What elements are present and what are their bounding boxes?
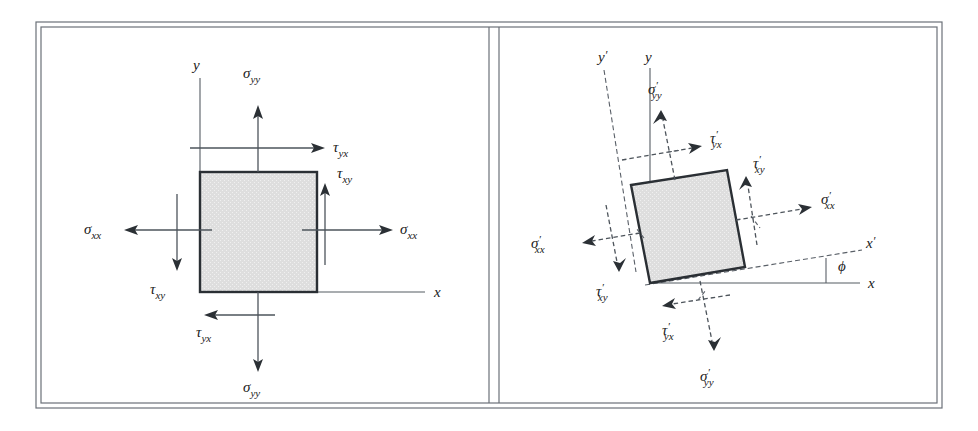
left-sigma-yy-top-sub: yy bbox=[249, 73, 260, 85]
right-sigma-xx-prime-right-sub: xx bbox=[824, 199, 835, 211]
right-y-axis-label: y bbox=[643, 49, 652, 65]
right-sigma-yy-prime-bottom-shaft bbox=[700, 281, 712, 341]
right-sigma-yy-prime-top-arrow-group bbox=[653, 110, 675, 180]
right-sigma-yy-prime-top-head bbox=[653, 110, 667, 124]
left-sigma-xx-right-label: σxx bbox=[400, 221, 417, 241]
right-sigma-yy-prime-bottom-head bbox=[708, 337, 721, 351]
right-tau-yx-prime-bottom-arrow-group bbox=[662, 295, 730, 309]
right-x-prime-mark: ′ bbox=[873, 234, 876, 248]
left-sigma-yy-top-arrow-group bbox=[253, 105, 263, 172]
right-tau-yx-prime-bottom-label: τ′yx bbox=[662, 320, 674, 342]
left-tau-xy-left-sub: xy bbox=[154, 289, 165, 301]
right-sigma-yy-prime-bottom-arrow-group bbox=[700, 281, 721, 351]
right-stress-square-rotated bbox=[631, 170, 745, 283]
right-tick-right-1 bbox=[751, 216, 760, 228]
right-sigma-xx-prime-left-shaft bbox=[592, 233, 640, 241]
left-stress-square bbox=[200, 172, 317, 292]
left-sigma-yy-bottom-sub: yy bbox=[249, 387, 260, 399]
left-sigma-xx-left-sub: xx bbox=[90, 229, 101, 241]
right-tau-xy-prime-left-shaft bbox=[606, 205, 617, 262]
right-phi-angle-label: ϕ bbox=[838, 258, 846, 274]
right-sigma-yy-prime-bottom-label: σ′yy bbox=[700, 366, 714, 388]
right-sigma-xx-prime-right-head bbox=[798, 204, 812, 215]
left-tau-yx-top-sub: yx bbox=[337, 147, 348, 159]
right-tau-xy-prime-right-shaft bbox=[748, 186, 757, 245]
right-y-prime-axis-line bbox=[604, 70, 636, 272]
left-sigma-yy-top-label: σyy bbox=[243, 65, 260, 85]
right-y-prime-mark: ′ bbox=[605, 48, 608, 62]
right-tau-xy-prime-right-sub: xy bbox=[754, 163, 765, 175]
left-tau-yx-bottom-sub: yx bbox=[200, 332, 211, 344]
left-sigma-xx-right-sub: xx bbox=[406, 229, 417, 241]
left-tau-xy-right-sub: xy bbox=[341, 173, 352, 185]
right-sigma-yy-prime-bottom-sub: yy bbox=[703, 376, 714, 388]
left-sigma-xx-left-label: σxx bbox=[84, 221, 101, 241]
right-y-prime-letter: y bbox=[596, 49, 605, 65]
right-tau-yx-prime-bottom-shaft bbox=[672, 295, 730, 304]
right-x-prime-axis-label: x′ bbox=[865, 234, 876, 251]
right-x-axis-label: x bbox=[867, 275, 875, 291]
right-sigma-xx-prime-left-sub: xx bbox=[534, 243, 545, 255]
right-tau-yx-prime-bottom-sub: yx bbox=[663, 330, 674, 342]
left-sigma-yy-bottom-label: σyy bbox=[243, 379, 260, 399]
right-tau-xy-prime-right-arrow-group bbox=[739, 176, 757, 245]
right-tau-xy-prime-left-label: τ′xy bbox=[596, 281, 608, 303]
right-tau-xy-prime-right-head bbox=[739, 176, 752, 190]
left-sigma-yy-bottom-arrow-group bbox=[253, 292, 263, 372]
right-tau-yx-prime-top-shaft bbox=[622, 148, 692, 160]
left-tau-yx-top-label: τyx bbox=[333, 139, 348, 159]
left-y-axis-label: y bbox=[191, 57, 200, 73]
left-tau-yx-bottom-label: τyx bbox=[196, 324, 211, 344]
right-tau-xy-prime-right-label: τ′xy bbox=[753, 153, 765, 175]
right-sigma-yy-prime-top-sub: yy bbox=[651, 89, 662, 101]
left-tau-xy-right-label: τxy bbox=[337, 165, 352, 185]
figure-canvas: y x σyy τyx bbox=[0, 0, 978, 431]
left-tau-xy-right-arrow-group bbox=[320, 183, 330, 265]
right-y-prime-axis-label: y′ bbox=[596, 48, 608, 65]
right-sigma-xx-prime-right-shaft bbox=[736, 209, 802, 220]
left-panel-unrotated: y x σyy τyx bbox=[84, 57, 441, 399]
right-tau-yx-prime-top-arrow-group bbox=[622, 143, 702, 160]
left-tau-xy-left-arrow-group bbox=[172, 194, 182, 271]
right-tau-yx-prime-top-label: τ′yx bbox=[710, 128, 722, 150]
right-sigma-xx-prime-right-arrow-group bbox=[736, 204, 812, 220]
right-tau-xy-prime-left-head bbox=[613, 258, 626, 272]
left-x-axis-label: x bbox=[433, 284, 441, 300]
right-sigma-xx-prime-left-label: σ′xx bbox=[531, 233, 545, 255]
right-sigma-yy-prime-top-shaft bbox=[663, 120, 675, 180]
right-panel-rotated: y x y′ x′ ϕ σ′yy bbox=[531, 48, 876, 388]
right-tau-xy-prime-left-sub: xy bbox=[597, 291, 608, 303]
right-tau-yx-prime-top-sub: yx bbox=[711, 138, 722, 150]
stress-transformation-figure: y x σyy τyx bbox=[0, 0, 978, 431]
left-tau-yx-bottom-arrow-group bbox=[204, 310, 275, 320]
right-sigma-xx-prime-right-label: σ′xx bbox=[821, 189, 835, 211]
left-tau-xy-left-label: τxy bbox=[150, 281, 165, 301]
